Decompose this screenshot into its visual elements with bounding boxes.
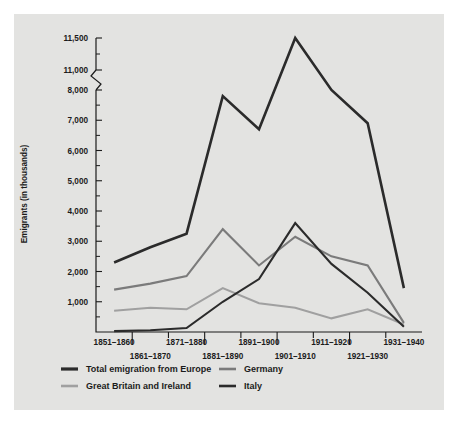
x-tick-label: 1861–1870 [130, 352, 171, 361]
y-tick-label: 1,000 [68, 298, 89, 307]
series-line-total-emigration-from-europe [114, 38, 404, 288]
y-axis-title: Emigrants (in thousands) [20, 144, 29, 243]
y-tick-label: 7,000 [68, 116, 89, 125]
x-tick-label: 1871–1880 [166, 338, 207, 347]
x-axis-tick-labels: 1851–18601861–18701871–18801881–18901891… [94, 338, 425, 361]
axis-lines [96, 38, 422, 332]
x-tick-label: 1931–1940 [383, 338, 424, 347]
chart-figure: 1,0002,0003,0004,0005,0006,0007,0008,000… [14, 14, 444, 410]
axis-break-symbol [91, 70, 101, 90]
y-tick-label: 8,000 [68, 86, 89, 95]
y-tick-label: 3,000 [68, 237, 89, 246]
series-line-great-britain-and-ireland [114, 288, 404, 324]
line-chart: 1,0002,0003,0004,0005,0006,0007,0008,000… [14, 14, 444, 410]
y-tick-label: 11,500 [63, 34, 88, 43]
legend-label: Italy [244, 381, 262, 391]
x-tick-label: 1901–1910 [275, 352, 316, 361]
legend-label: Total emigration from Europe [86, 364, 211, 374]
y-tick-label: 2,000 [68, 268, 89, 277]
y-tick-label: 6,000 [68, 147, 89, 156]
x-tick-label: 1911–1920 [311, 338, 352, 347]
data-series-lines [114, 38, 404, 331]
x-tick-label: 1921–1930 [347, 352, 388, 361]
y-tick-label: 5,000 [68, 177, 89, 186]
x-tick-label: 1881–1890 [202, 352, 243, 361]
x-tick-label: 1891–1900 [239, 338, 280, 347]
legend-label: Germany [244, 364, 283, 374]
legend-label: Great Britain and Ireland [86, 381, 191, 391]
y-axis-break-zigzag [91, 70, 101, 90]
chart-legend: Total emigration from EuropeGermanyGreat… [61, 364, 283, 391]
y-axis-tick-marks [96, 38, 102, 317]
x-tick-label: 1851–1860 [94, 338, 135, 347]
series-line-italy [114, 223, 404, 331]
y-tick-label: 4,000 [68, 207, 89, 216]
y-axis-tick-labels: 1,0002,0003,0004,0005,0006,0007,0008,000… [63, 34, 88, 307]
y-tick-label: 11,000 [63, 66, 88, 75]
